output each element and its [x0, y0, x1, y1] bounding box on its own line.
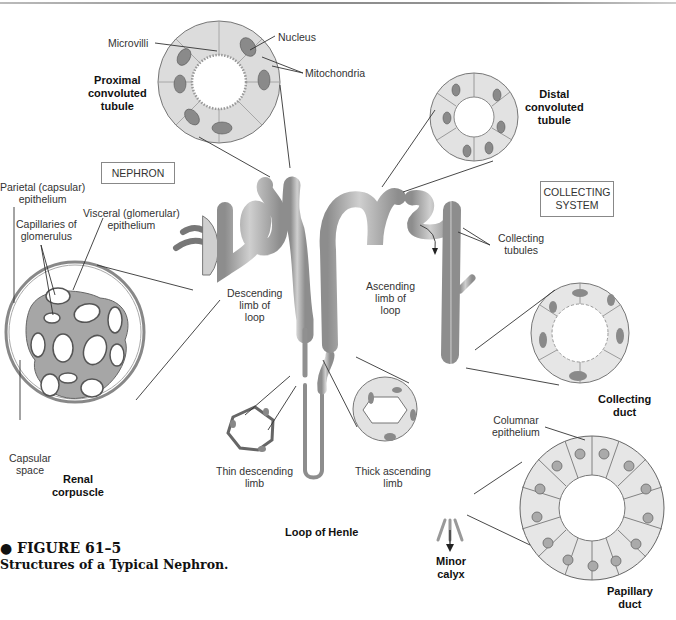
label-thick-ascending-limb: Thick ascending limb [355, 465, 431, 489]
nephron-box: NEPHRON [101, 162, 175, 184]
thin-descending-limb-cross-section [228, 407, 273, 452]
label-capsular-space: Capsular space [9, 452, 51, 476]
label-ascending-limb-of-loop: Ascending limb of loop [366, 280, 415, 316]
label-visceral-epithelium: Visceral (glomerular) epithelium [83, 207, 180, 231]
bullet-icon: ● [0, 540, 12, 556]
figure-caption: ● FIGURE 61–5 Structures of a Typical Ne… [0, 540, 228, 572]
label-loop-of-henle: Loop of Henle [285, 526, 358, 539]
label-parietal-epithelium: Parietal (capsular) epithelium [0, 181, 85, 205]
renal-corpuscle-cross-section [6, 262, 144, 402]
figure-title: Structures of a Typical Nephron. [0, 557, 228, 572]
label-collecting-duct: Collecting duct [598, 393, 651, 419]
label-columnar-epithelium: Columnar epithelium [492, 414, 540, 438]
label-descending-limb-of-loop: Descending limb of loop [227, 287, 282, 323]
thick-ascending-limb-cross-section [353, 377, 417, 441]
label-capillaries-of-glomerulus: Capillaries of glomerulus [16, 218, 77, 242]
label-proximal-convoluted-tubule: Proximal convoluted tubule [88, 74, 147, 113]
label-minor-calyx: Minor calyx [436, 555, 466, 581]
distal-tubule-cross-section [430, 73, 518, 161]
label-microvilli: Microvilli [108, 37, 148, 49]
label-mitochondria: Mitochondria [305, 67, 365, 79]
collecting-duct-cross-section [531, 283, 629, 383]
collecting-system-box: COLLECTING SYSTEM [540, 181, 614, 217]
label-collecting-tubules: Collecting tubules [498, 232, 544, 256]
papillary-duct-cross-section [520, 436, 664, 580]
label-papillary-duct: Papillary duct [607, 585, 653, 611]
figure-number: FIGURE 61–5 [17, 540, 121, 556]
label-thin-descending-limb: Thin descending limb [216, 465, 293, 489]
label-nucleus: Nucleus [278, 31, 316, 43]
proximal-tubule-cross-section [158, 21, 280, 143]
label-renal-corpuscle: Renal corpuscle [52, 473, 104, 499]
label-distal-convoluted-tubule: Distal convoluted tubule [525, 88, 584, 127]
